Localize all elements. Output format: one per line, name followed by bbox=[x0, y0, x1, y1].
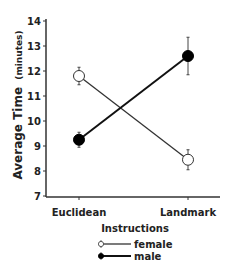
x-category-label: Landmark bbox=[160, 207, 216, 218]
y-axis: 7891011121314 bbox=[27, 16, 46, 202]
legend-label-male: male bbox=[134, 251, 162, 262]
series-layer bbox=[74, 37, 194, 170]
y-tick-label: 8 bbox=[34, 166, 41, 177]
x-axis-title: Instructions bbox=[101, 223, 169, 234]
y-tick-label: 9 bbox=[34, 141, 41, 152]
y-tick-label: 13 bbox=[27, 41, 41, 52]
y-tick-label: 14 bbox=[27, 16, 41, 27]
male-legend-marker-icon bbox=[98, 253, 103, 258]
legend: femalemale bbox=[98, 239, 172, 262]
male-line bbox=[79, 56, 188, 140]
male-data-point bbox=[183, 51, 194, 62]
x-category-label: Euclidean bbox=[52, 207, 107, 218]
y-axis-title-main: Average Time bbox=[11, 87, 25, 180]
female-data-point bbox=[74, 71, 85, 82]
female-data-point bbox=[183, 154, 194, 165]
female-legend-marker-icon bbox=[98, 241, 103, 246]
y-tick-label: 11 bbox=[27, 91, 41, 102]
y-axis-title-unit: (minutes) bbox=[14, 30, 24, 79]
male-data-point bbox=[74, 134, 85, 145]
interaction-line-chart: 7891011121314 EuclideanLandmark Average … bbox=[0, 0, 234, 279]
y-tick-label: 12 bbox=[27, 66, 41, 77]
legend-label-female: female bbox=[134, 239, 173, 250]
x-axis: EuclideanLandmark bbox=[46, 197, 220, 218]
y-axis-title: Average Time (minutes) bbox=[11, 30, 25, 179]
y-tick-label: 10 bbox=[27, 116, 41, 127]
female-line bbox=[79, 76, 188, 160]
y-tick-label: 7 bbox=[34, 191, 41, 202]
